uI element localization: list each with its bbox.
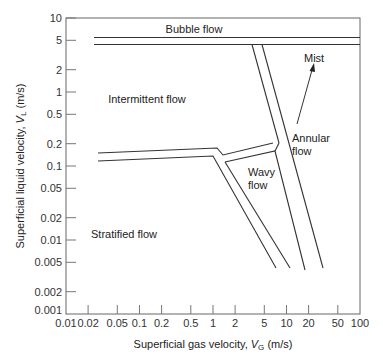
x-tick-2: 2 — [232, 317, 238, 329]
intermittent-lower-boundary — [98, 143, 273, 155]
label-wavy-flow-line1: Wavy — [248, 166, 276, 178]
x-tick-10: 10 — [280, 317, 292, 329]
x-tick-50: 50 — [332, 317, 344, 329]
y-tick-0.2: 0.2 — [47, 138, 62, 150]
x-tick-0.05: 0.05 — [107, 317, 128, 329]
label-annular-flow-line2: flow — [292, 145, 312, 157]
x-tick-labels: 0.01 0.02 0.05 0.1 0.2 0.5 1 2 5 10 20 5… — [55, 317, 369, 329]
y-tick-0.1: 0.1 — [47, 160, 62, 172]
x-tick-0.1: 0.1 — [132, 317, 147, 329]
y-tick-10: 10 — [50, 12, 62, 24]
y-tick-0.01: 0.01 — [41, 234, 62, 246]
y-tick-2: 2 — [56, 64, 62, 76]
x-axis-title: Superficial gas velocity, VG (m/s) — [134, 338, 293, 352]
y-tick-0.05: 0.05 — [41, 182, 62, 194]
label-stratified-flow: Stratified flow — [91, 228, 157, 240]
label-mist: Mist — [304, 52, 324, 64]
x-tick-0.5: 0.5 — [183, 317, 198, 329]
y-axis-title: Superficial liquid velocity, VL (m/s) — [14, 83, 28, 248]
annular-left-lower — [275, 143, 279, 151]
y-tick-0.001: 0.001 — [34, 304, 62, 316]
y-tick-0.5: 0.5 — [47, 108, 62, 120]
x-axis-ticks — [88, 305, 338, 314]
mist-arrow — [297, 63, 315, 124]
x-tick-20: 20 — [302, 317, 314, 329]
y-tick-labels: 10 5 2 1 0.5 0.2 0.1 0.05 0.02 0.01 0.00… — [34, 12, 62, 316]
label-annular-flow-line1: Annular — [292, 132, 330, 144]
arrowhead-icon — [310, 63, 316, 72]
x-tick-1: 1 — [210, 317, 216, 329]
y-tick-1: 1 — [56, 86, 62, 98]
x-tick-100: 100 — [351, 317, 369, 329]
x-tick-0.01: 0.01 — [55, 317, 76, 329]
label-bubble-flow: Bubble flow — [166, 23, 223, 35]
y-tick-0.005: 0.005 — [34, 256, 62, 268]
label-wavy-flow-line2: flow — [248, 179, 268, 191]
y-tick-5: 5 — [56, 34, 62, 46]
label-intermittent-flow: Intermittent flow — [108, 93, 186, 105]
x-tick-0.2: 0.2 — [154, 317, 169, 329]
y-tick-0.02: 0.02 — [41, 212, 62, 224]
flow-regime-map: 10 5 2 1 0.5 0.2 0.1 0.05 0.02 0.01 0.00… — [0, 0, 383, 362]
y-tick-0.002: 0.002 — [34, 286, 62, 298]
x-tick-5: 5 — [261, 317, 267, 329]
x-tick-0.02: 0.02 — [77, 317, 98, 329]
y-axis-ticks — [66, 18, 76, 292]
